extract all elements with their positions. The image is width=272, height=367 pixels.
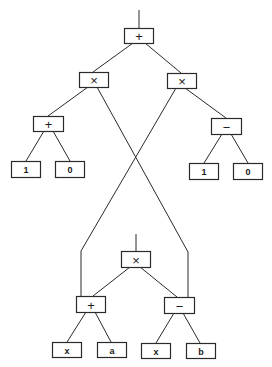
- node-label: +: [45, 117, 53, 132]
- leaf-node-u_leaf_0a: 0: [56, 162, 85, 178]
- leaf-node-u_leaf_1a: 1: [12, 162, 41, 178]
- node-label: −: [223, 120, 231, 135]
- operator-node-l_plus: +: [77, 297, 106, 313]
- edge-l_plus-to-l_leaf_x1: [67, 312, 86, 342]
- edge-u_plus-to-u_leaf_1a: [26, 131, 44, 161]
- leaf-node-u_leaf_0b: 0: [234, 164, 263, 180]
- operator-node-u_minus: −: [212, 119, 242, 135]
- edge-u_minus-to-u_leaf_1b: [204, 134, 222, 163]
- nodes-layer: +××+−1010×+−xaxb: [12, 29, 263, 359]
- node-label: −: [176, 299, 184, 314]
- edge-u_root-to-u_mul_right: [145, 43, 181, 73]
- edge-l_root-to-l_minus: [140, 267, 177, 297]
- edge-u_plus-to-u_leaf_0a: [53, 131, 70, 161]
- edge-l_minus-to-l_leaf_x2: [156, 313, 174, 343]
- node-label: b: [198, 347, 204, 357]
- operator-node-u_plus: +: [34, 117, 64, 133]
- edge-u_mul_right-to-u_minus: [185, 88, 226, 118]
- node-label: x: [64, 346, 69, 356]
- operator-node-l_root: ×: [122, 252, 151, 268]
- operator-node-u_root: +: [125, 29, 154, 45]
- node-label: 0: [67, 165, 72, 175]
- node-label: ×: [132, 253, 140, 268]
- edge-l_plus-to-l_leaf_a: [95, 312, 111, 342]
- node-label: +: [87, 298, 95, 313]
- diagram-canvas: +××+−1010×+−xaxb: [0, 0, 272, 367]
- operator-node-u_mul_right: ×: [168, 74, 197, 90]
- node-label: 0: [245, 167, 250, 177]
- operator-node-l_minus: −: [165, 298, 195, 314]
- expression-tree-diagram: +××+−1010×+−xaxb: [0, 0, 272, 367]
- leaf-node-l_leaf_x2: x: [142, 344, 171, 359]
- leaf-node-l_leaf_x1: x: [53, 343, 82, 358]
- edge-u_minus-to-u_leaf_0b: [231, 134, 248, 163]
- node-label: ×: [90, 73, 98, 88]
- node-label: x: [153, 347, 158, 357]
- leaf-node-l_leaf_a: a: [98, 343, 127, 358]
- edge-u_mul_left-to-u_plus: [48, 87, 88, 116]
- leaf-node-u_leaf_1b: 1: [190, 164, 219, 180]
- edge-l_root-to-l_plus: [93, 267, 130, 296]
- node-label: ×: [178, 74, 186, 89]
- node-label: 1: [201, 167, 206, 177]
- leaf-node-l_leaf_b: b: [187, 344, 216, 359]
- node-label: 1: [23, 165, 28, 175]
- edge-u_root-to-u_mul_left: [93, 43, 133, 72]
- node-label: +: [135, 29, 143, 44]
- operator-node-u_mul_left: ×: [80, 73, 109, 89]
- edge-l_minus-to-l_leaf_b: [183, 313, 200, 343]
